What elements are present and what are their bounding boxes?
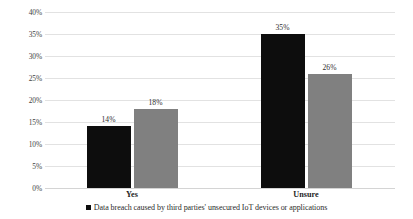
y-axis-tick-label: 0% <box>0 184 42 193</box>
bar-value-label: 35% <box>261 23 305 32</box>
y-axis-tick-label: 25% <box>0 74 42 83</box>
y-axis-tick-label: 30% <box>0 52 42 61</box>
bar-value-label: 14% <box>87 115 131 124</box>
bar-chart: 40%35%30%25%20%15%10%5%0% 14%18%35%26% Y… <box>0 0 413 219</box>
y-axis-tick-label: 15% <box>0 118 42 127</box>
gridline <box>45 34 395 35</box>
bar-unsure-series-a <box>261 34 305 188</box>
category-label-unsure: Unsure <box>266 190 346 199</box>
gridline <box>45 12 395 13</box>
gridline <box>45 188 395 189</box>
gridline <box>45 56 395 57</box>
plot-area: 14%18%35%26% <box>45 12 395 188</box>
y-axis-tick-label: 5% <box>0 162 42 171</box>
legend-swatch-icon <box>86 205 91 210</box>
y-axis-tick-label: 40% <box>0 8 42 17</box>
y-axis-tick-label: 35% <box>0 30 42 39</box>
chart-legend: Data breach caused by third parties' uns… <box>0 203 413 212</box>
bar-yes-series-a <box>87 126 131 188</box>
legend-label: Data breach caused by third parties' uns… <box>94 203 328 212</box>
category-label-yes: Yes <box>92 190 172 199</box>
bar-unsure-series-b <box>308 74 352 188</box>
y-axis-tick-label: 20% <box>0 96 42 105</box>
bar-value-label: 18% <box>134 98 178 107</box>
y-axis-tick-label: 10% <box>0 140 42 149</box>
bar-yes-series-b <box>134 109 178 188</box>
bar-value-label: 26% <box>308 63 352 72</box>
y-axis: 40%35%30%25%20%15%10%5%0% <box>0 0 42 219</box>
